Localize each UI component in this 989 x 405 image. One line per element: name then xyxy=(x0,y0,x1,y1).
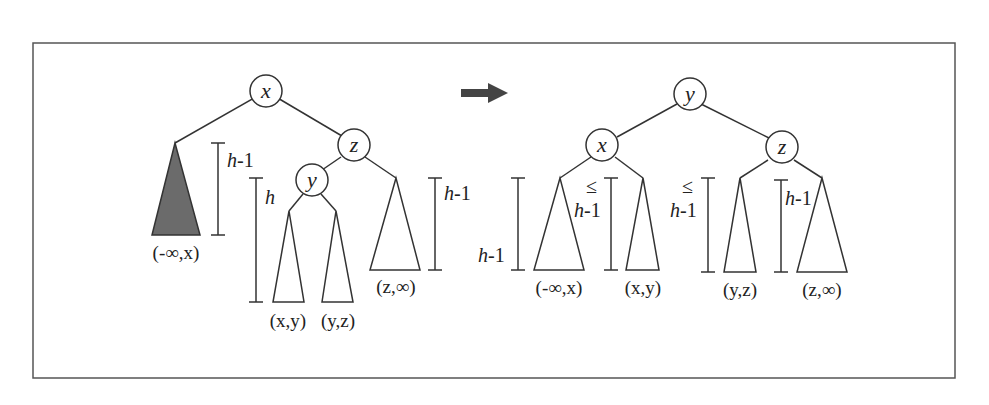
after-tree: y x z h-1 ≤ h-1 ≤ h-1 xyxy=(478,78,847,301)
subtree-x-y xyxy=(626,178,659,270)
label-y-z: (y,z) xyxy=(321,310,355,332)
label-neg-inf-x: (-∞,x) xyxy=(536,277,583,299)
height-bar-y-z: ≤ h-1 xyxy=(670,175,715,272)
subtree-x-y xyxy=(273,211,304,302)
svg-text:≤: ≤ xyxy=(586,175,597,197)
node-y-label: y xyxy=(683,81,695,106)
node-y-label: y xyxy=(305,167,317,192)
height-bar-h-1-left: h-1 xyxy=(211,143,254,235)
label-x-y: (x,y) xyxy=(270,310,306,332)
label-y-z: (y,z) xyxy=(723,279,757,301)
height-bar-neg-inf-x: h-1 xyxy=(478,178,525,270)
height-bar-h-1-right: h-1 xyxy=(428,178,471,270)
svg-text:h-1: h-1 xyxy=(227,149,254,171)
svg-text:h-1: h-1 xyxy=(478,244,505,266)
node-x-label: x xyxy=(260,78,271,103)
node-z-label: z xyxy=(777,134,787,159)
label-z-inf: (z,∞) xyxy=(802,279,841,301)
height-bar-h: h xyxy=(249,178,275,302)
before-tree: x z y h-1 h h-1 (-∞,x) (x,y) (y,z) (z,∞) xyxy=(152,75,471,332)
label-neg-inf-x: (-∞,x) xyxy=(153,242,200,264)
svg-text:≤: ≤ xyxy=(682,175,693,197)
subtree-neg-inf-x-shaded xyxy=(152,143,200,235)
subtree-y-z xyxy=(724,178,756,272)
label-z-inf: (z,∞) xyxy=(376,276,415,298)
label-x-y: (x,y) xyxy=(625,277,661,299)
svg-text:h-1: h-1 xyxy=(574,199,601,221)
svg-text:h: h xyxy=(265,186,275,208)
transform-arrow-icon xyxy=(461,83,508,103)
svg-text:h-1: h-1 xyxy=(785,187,812,209)
avl-rotation-diagram: x z y h-1 h h-1 (-∞,x) (x,y) (y,z) (z,∞) xyxy=(0,0,989,405)
subtree-z-inf xyxy=(370,178,420,270)
subtree-neg-inf-x xyxy=(534,178,584,270)
subtree-y-z xyxy=(322,211,353,302)
svg-text:h-1: h-1 xyxy=(444,182,471,204)
svg-text:h-1: h-1 xyxy=(670,199,697,221)
node-z-label: z xyxy=(349,132,359,157)
node-x-label: x xyxy=(596,132,607,157)
